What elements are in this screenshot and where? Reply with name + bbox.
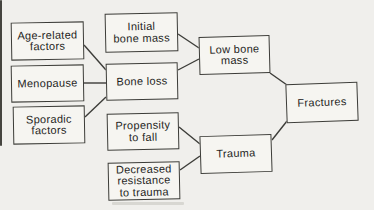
edge-age-related-factors--bone-loss [84,45,106,70]
node-label-line: bone mass [113,32,170,45]
scan-artifact-1 [112,202,184,205]
node-label-line: to fall [129,131,158,143]
edge-decreased-resistance-to-trauma--trauma [180,156,200,170]
edge-trauma--fractures [272,121,287,140]
node-label-line: Menopause [17,77,77,90]
node-fractures: Fractures [285,82,358,123]
edge-initial-bone-mass--low-bone-mass [178,34,199,48]
node-label-line: Trauma [216,148,256,161]
edge-low-bone-mass--fractures [270,73,287,85]
node-menopause: Menopause [11,64,85,102]
node-bone-loss: Bone loss [106,62,179,100]
node-sporadic-factors: Sporadicfactors [13,105,86,144]
node-label-line: Bone loss [116,75,167,88]
node-age-related-factors: Age-relatedfactors [11,21,85,60]
node-low-bone-mass: Low bonemass [199,35,271,75]
node-label-line: Fractures [297,96,347,109]
edge-sporadic-factors--bone-loss [85,97,106,117]
node-label-line: to trauma [120,186,169,199]
edge-propensity-to-fall--trauma [179,127,200,144]
edge-bone-loss--low-bone-mass [178,59,199,70]
scan-artifact-0 [0,0,2,146]
node-decreased-resistance-to-trauma: Decreasedresistanceto trauma [108,161,181,200]
node-trauma: Trauma [199,134,272,174]
node-label-line: mass [221,55,249,67]
node-propensity-to-fall: Propensityto fall [107,112,180,150]
node-label-line: factors [30,41,65,53]
diagram-canvas: Age-relatedfactorsInitialbone massMenopa… [0,0,374,210]
node-label-line: factors [31,125,66,137]
node-initial-bone-mass: Initialbone mass [105,12,179,53]
